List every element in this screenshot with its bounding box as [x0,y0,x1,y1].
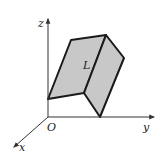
diagram-canvas: L O y x z [0,0,165,166]
z-axis-label: z [37,17,44,30]
x-axis-label: x [19,141,26,154]
origin-label: O [47,121,56,134]
surface-label: L [82,59,90,72]
y-axis-label: y [142,121,150,134]
